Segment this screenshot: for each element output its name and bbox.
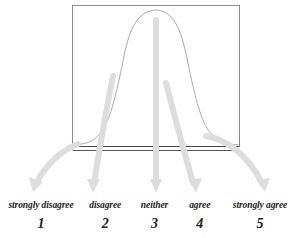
scale-label-row: strongly disagree disagree neither agree…	[0, 200, 301, 211]
scale-number-5: 5	[222, 216, 298, 232]
scale-label-strongly-agree: strongly agree	[222, 200, 298, 211]
scale-label-disagree: disagree	[79, 200, 131, 211]
arrowhead-disagree	[87, 179, 100, 193]
arrow-to-strongly-disagree	[36, 144, 78, 183]
scale-number-row: 1 2 3 4 5	[0, 216, 301, 232]
arrowhead-group	[29, 177, 270, 193]
arrowhead-agree	[189, 178, 202, 193]
scale-number-1: 1	[3, 216, 79, 232]
scale-number-2: 2	[79, 216, 131, 232]
scale-label-strongly-disagree: strongly disagree	[3, 200, 79, 211]
arrowhead-strongly-agree	[256, 178, 270, 192]
scale-number-3: 3	[132, 216, 178, 232]
arrowhead-neither	[150, 179, 162, 193]
scale-number-4: 4	[178, 216, 222, 232]
scale-label-neither: neither	[132, 200, 178, 211]
scale-label-agree: agree	[178, 200, 222, 211]
